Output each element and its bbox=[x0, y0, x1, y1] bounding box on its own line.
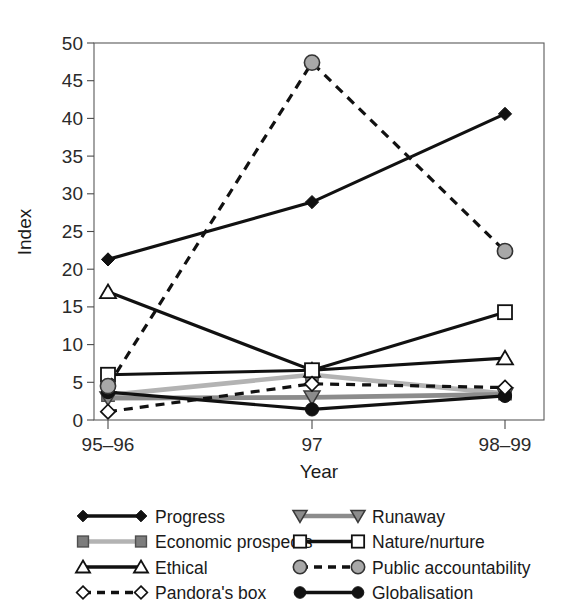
filled-circle-gray-marker bbox=[304, 55, 319, 70]
y-tick-label: 0 bbox=[72, 410, 83, 431]
data-point bbox=[305, 363, 319, 377]
data-point bbox=[304, 55, 319, 70]
x-axis-title: Year bbox=[300, 461, 339, 482]
y-tick-label: 50 bbox=[62, 33, 83, 54]
filled-circle-marker bbox=[305, 403, 318, 416]
data-point bbox=[305, 403, 318, 416]
filled-circle-gray-marker bbox=[497, 244, 512, 259]
filled-circle-gray-marker bbox=[351, 560, 364, 573]
chart-canvas: 05101520253035404550 95–969798–99 Index … bbox=[0, 0, 575, 612]
filled-square-marker bbox=[136, 536, 147, 547]
x-tick-label: 98–99 bbox=[479, 434, 532, 455]
legend-label: Pandora's box bbox=[155, 583, 267, 603]
legend-label: Progress bbox=[155, 507, 225, 527]
legend-label: Economic prospects bbox=[155, 532, 313, 552]
y-tick-label: 35 bbox=[62, 146, 83, 167]
x-tick-label: 95–96 bbox=[82, 434, 135, 455]
legend-label: Nature/nurture bbox=[372, 532, 485, 552]
filled-square-marker bbox=[78, 536, 89, 547]
filled-circle-marker bbox=[294, 587, 306, 599]
data-point bbox=[497, 244, 512, 259]
y-tick-label: 40 bbox=[62, 108, 83, 129]
legend-label: Runaway bbox=[372, 507, 445, 527]
y-tick-label: 30 bbox=[62, 183, 83, 204]
open-square-marker bbox=[294, 535, 306, 547]
y-axis-title: Index bbox=[14, 208, 35, 255]
legend-label: Ethical bbox=[155, 558, 208, 578]
y-tick-label: 15 bbox=[62, 296, 83, 317]
open-square-marker bbox=[498, 305, 512, 319]
legend-label: Globalisation bbox=[372, 583, 473, 603]
data-point bbox=[498, 305, 512, 319]
line-chart-figure: 05101520253035404550 95–969798–99 Index … bbox=[0, 0, 575, 612]
open-square-marker bbox=[352, 535, 364, 547]
chart-background bbox=[0, 0, 575, 612]
y-tick-label: 45 bbox=[62, 70, 83, 91]
legend-label: Public accountability bbox=[372, 558, 531, 578]
x-tick-label: 97 bbox=[301, 434, 322, 455]
filled-circle-marker bbox=[352, 587, 364, 599]
data-point bbox=[100, 378, 115, 393]
open-square-marker bbox=[305, 363, 319, 377]
filled-circle-gray-marker bbox=[293, 560, 306, 573]
filled-circle-gray-marker bbox=[100, 378, 115, 393]
y-tick-label: 10 bbox=[62, 334, 83, 355]
y-tick-label: 5 bbox=[72, 372, 83, 393]
y-tick-label: 20 bbox=[62, 259, 83, 280]
y-tick-label: 25 bbox=[62, 221, 83, 242]
